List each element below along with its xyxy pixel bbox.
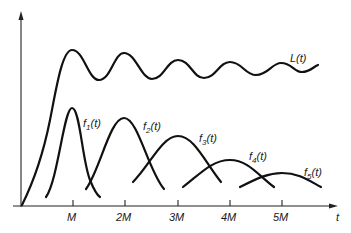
y-axis-arrow-icon — [19, 11, 24, 20]
label-f2: f2(t) — [143, 120, 161, 135]
curve-L-rise — [22, 120, 50, 205]
curve-L — [50, 50, 318, 120]
x-axis-label: t — [336, 211, 340, 223]
label-f5: f5(t) — [304, 166, 322, 181]
x-axis-arrow-icon — [329, 204, 338, 209]
label-L: L(t) — [290, 52, 307, 64]
label-f1: f1(t) — [83, 117, 101, 132]
label-f4: f4(t) — [249, 150, 267, 165]
tick-label-3M: 3M — [169, 211, 185, 223]
tick-label-4M: 4M — [221, 211, 237, 223]
curve-f4 — [183, 160, 274, 187]
axes — [13, 11, 338, 209]
label-f3: f3(t) — [199, 132, 217, 147]
tick-label-M: M — [67, 211, 77, 223]
tick-label-2M: 2M — [115, 211, 132, 223]
tick-label-5M: 5M — [273, 211, 289, 223]
diagram-canvas: M 2M 3M 4M 5M t L(t) f1(t) f2(t) f3(t) f… — [0, 0, 351, 233]
